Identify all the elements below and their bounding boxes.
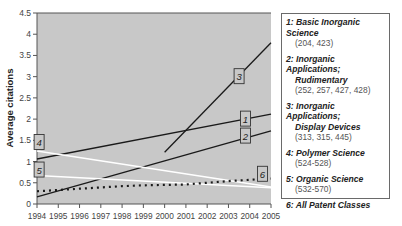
y-tick-label: 0.5	[19, 178, 31, 188]
annotation-label: 4	[36, 137, 41, 148]
legend-entry-3: 3: Inorganic Applications; Display Devic…	[286, 101, 389, 143]
legend-title: 5: Organic Science	[286, 174, 389, 185]
legend-classes: (313, 315, 445)	[286, 132, 389, 143]
annotation-label: 2	[242, 131, 249, 142]
x-tick-label: 1999	[134, 211, 153, 221]
legend-title: 3: Inorganic Applications;	[286, 101, 389, 122]
x-tick-label: 1994	[28, 211, 47, 221]
annotation-label: 1	[243, 114, 248, 125]
x-tick-label: 2000	[155, 211, 174, 221]
y-tick-label: 4	[26, 29, 31, 39]
y-tick-label: 0	[26, 199, 31, 209]
x-tick-label: 2001	[177, 211, 196, 221]
legend-classes: (252, 257, 427, 428)	[286, 85, 389, 96]
legend-title: 2: Inorganic Applications;	[286, 54, 389, 75]
x-tick-label: 1996	[70, 211, 89, 221]
y-tick-label: 1.5	[19, 135, 31, 145]
y-tick-label: 2	[26, 114, 31, 124]
y-tick-label: 3	[26, 72, 31, 82]
legend-entry-4: 4: Polymer Science (524-528)	[286, 148, 389, 169]
legend-title-cont: Display Devices	[286, 122, 389, 133]
legend-entry-1: 1: Basic Inorganic Science (204, 423)	[286, 17, 389, 49]
legend: 1: Basic Inorganic Science (204, 423) 2:…	[281, 13, 390, 199]
plot-area	[37, 13, 271, 204]
y-tick-label: 3.5	[19, 50, 31, 60]
y-tick-label: 2.5	[19, 93, 31, 103]
y-tick-label: 1	[26, 157, 31, 167]
x-tick-label: 2003	[219, 211, 238, 221]
annotation-label: 6	[260, 169, 266, 180]
annotation-label: 3	[236, 71, 242, 82]
x-tick-label: 2005	[262, 211, 281, 221]
legend-classes: (524-528)	[286, 158, 389, 169]
x-tick-label: 2002	[198, 211, 217, 221]
y-axis-label: Average citations	[4, 69, 15, 148]
legend-entry-5: 5: Organic Science (532-570)	[286, 174, 389, 195]
annotation-label: 5	[36, 165, 42, 176]
legend-entry-6: 6: All Patent Classes	[286, 200, 389, 211]
legend-title: 1: Basic Inorganic Science	[286, 17, 389, 38]
x-tick-label: 2004	[240, 211, 259, 221]
legend-classes: (532-570)	[286, 184, 389, 195]
legend-classes: (204, 423)	[286, 38, 389, 49]
y-tick-label: 4.5	[19, 8, 31, 18]
legend-entry-2: 2: Inorganic Applications; Rudimentary (…	[286, 54, 389, 96]
legend-title-cont: Rudimentary	[286, 75, 389, 86]
x-tick-label: 1997	[92, 211, 111, 221]
x-tick-label: 1995	[49, 211, 68, 221]
x-tick-label: 1998	[113, 211, 132, 221]
legend-title: 4: Polymer Science	[286, 148, 389, 159]
legend-title: 6: All Patent Classes	[286, 200, 389, 211]
